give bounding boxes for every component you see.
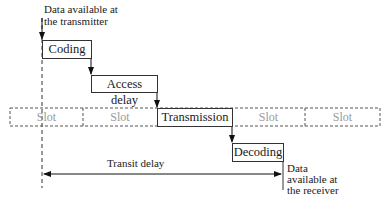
slot-5: Slot (305, 108, 380, 126)
transit-delay-label: Transit delay (107, 157, 164, 169)
start-label: Data available at the transmitter (44, 3, 118, 27)
end-label: Data available at the receiver (287, 163, 339, 196)
start-label-line2: the transmitter (44, 15, 118, 27)
slot-4: Slot (232, 108, 305, 126)
start-label-line1: Data available at (44, 3, 118, 15)
stage-decoding: Decoding (232, 143, 284, 162)
end-label-line3: the receiver (287, 185, 339, 196)
slot-2: Slot (83, 108, 157, 126)
stage-coding: Coding (42, 40, 92, 59)
slot-1: Slot (10, 108, 83, 126)
stage-transmission: Transmission (157, 108, 233, 127)
stage-access-delay: Access delay (91, 75, 158, 93)
